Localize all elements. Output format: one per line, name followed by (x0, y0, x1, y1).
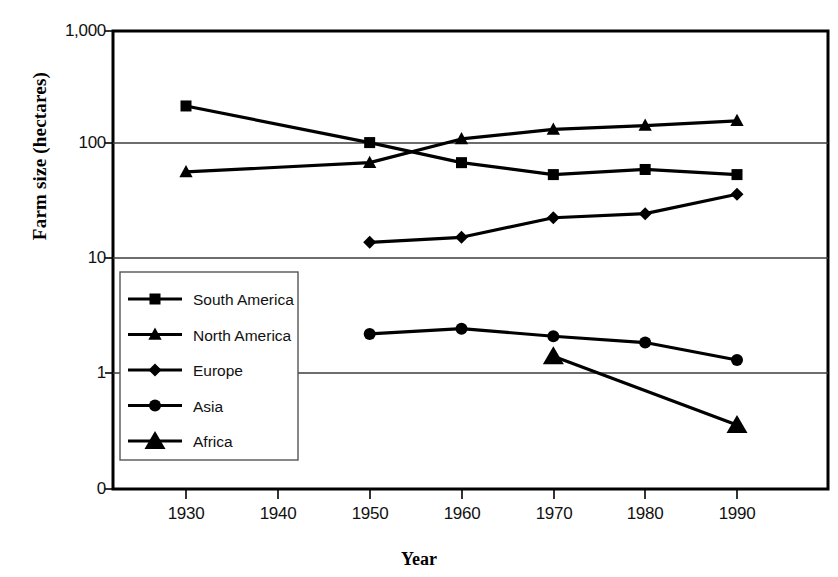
legend-item-label: Europe (193, 362, 243, 379)
legend-sample-marker (149, 400, 161, 412)
data-point-marker (456, 157, 467, 168)
data-point-marker (547, 330, 559, 342)
legend-sample-marker (150, 294, 161, 305)
data-point-marker (181, 100, 192, 111)
data-point-marker (731, 188, 744, 201)
legend-item-label: Asia (193, 398, 224, 415)
legend-item-label: North America (193, 327, 292, 344)
chart-legend: South AmericaNorth AmericaEuropeAsiaAfri… (120, 272, 298, 460)
series-europe (363, 188, 743, 249)
data-point-marker (639, 337, 651, 349)
data-point-marker (640, 164, 651, 175)
data-point-marker (456, 323, 468, 335)
data-point-marker (639, 207, 652, 220)
data-point-marker (548, 169, 559, 180)
data-point-marker (364, 328, 376, 340)
series-line (553, 356, 737, 425)
plot-area: South AmericaNorth AmericaEuropeAsiaAfri… (0, 0, 838, 577)
data-point-marker (364, 137, 375, 148)
legend-item-label: South America (193, 291, 294, 308)
series-africa (543, 346, 748, 433)
data-point-marker (547, 211, 560, 224)
data-point-marker (543, 346, 564, 364)
data-point-marker (731, 354, 743, 366)
farm-size-line-chart: Farm size (hectares) Year 1,000 100 10 1… (0, 0, 838, 577)
data-point-marker (727, 415, 748, 433)
legend-item-label: Africa (193, 433, 233, 450)
data-point-marker (455, 231, 468, 244)
data-point-marker (732, 169, 743, 180)
data-point-marker (363, 236, 376, 249)
